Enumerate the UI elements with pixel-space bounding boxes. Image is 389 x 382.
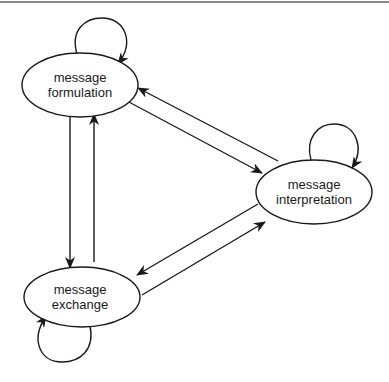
node-label-line1: message [54, 282, 107, 297]
node-message-formulation: message formulation [22, 53, 138, 117]
node-label-line2: exchange [52, 297, 108, 312]
node-message-interpretation: message interpretation [256, 160, 372, 224]
node-label-line2: formulation [48, 85, 112, 100]
state-diagram: message formulation message interpretati… [0, 0, 389, 382]
node-message-exchange: message exchange [24, 267, 140, 327]
node-label-line2: interpretation [276, 192, 352, 207]
edge-exchange-to-interpretation [142, 222, 265, 295]
node-label-line1: message [288, 177, 341, 192]
edge-interpretation-to-formulation [138, 88, 278, 161]
node-label-line1: message [54, 70, 107, 85]
edge-formulation-to-interpretation [127, 101, 262, 173]
edge-interpretation-to-exchange [137, 204, 258, 275]
